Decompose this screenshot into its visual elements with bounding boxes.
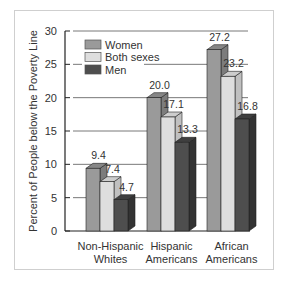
y-tick-label: 20 [45,92,57,104]
bar-women [147,98,161,231]
value-label: 27.2 [209,31,230,43]
legend-label: Men [105,64,126,76]
category-label: Hispanic [150,240,193,252]
category-label: Americans [146,253,198,265]
value-label: 16.8 [237,100,258,112]
bar-men [175,142,189,231]
value-label: 20.0 [149,79,170,91]
value-label: 7.4 [105,163,120,175]
bar-women [207,50,221,231]
y-tick-label: 25 [45,58,57,70]
category-label: Americans [206,253,258,265]
legend-label: Women [105,39,143,51]
bar-chart: 051015202530Percent of People below the … [0,0,286,281]
y-tick-label: 10 [45,158,57,170]
value-label: 13.3 [177,123,198,135]
bar-men [235,119,249,231]
legend-swatch [85,40,101,49]
y-tick-label: 15 [45,125,57,137]
legend-label: Both sexes [105,51,160,63]
y-axis-label: Percent of People below the Poverty Line [27,30,39,232]
value-label: 4.7 [119,181,134,193]
y-tick-label: 0 [51,225,57,237]
category-label: Whites [94,253,128,265]
category-label: Non-Hispanic [77,240,144,252]
bar-both-sexes [221,76,235,231]
value-label: 17.1 [163,98,184,110]
bar-side [249,114,256,231]
bar-both-sexes [161,117,175,231]
bar-women [86,168,100,231]
value-label: 23.2 [223,57,244,69]
category-label: African [214,240,248,252]
bar-both-sexes [100,182,114,231]
bar-men [114,200,128,231]
y-tick-label: 30 [45,25,57,37]
bar-side [128,195,135,231]
value-label: 9.4 [91,149,106,161]
y-tick-label: 5 [51,192,57,204]
legend-swatch [85,65,101,74]
bar-side [189,137,196,231]
legend-swatch [85,53,101,62]
